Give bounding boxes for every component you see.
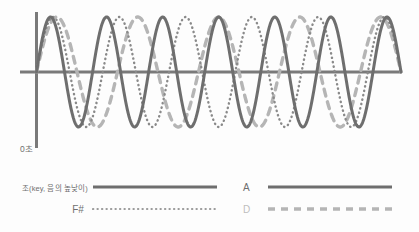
legend-item-key[interactable]: 조(key, 음의 높낮이) bbox=[22, 180, 218, 194]
legend: 조(key, 음의 높낮이) F# A bbox=[0, 178, 419, 226]
time-origin-label: 0초 bbox=[20, 142, 33, 154]
legend-swatch-key-solid bbox=[92, 183, 218, 191]
legend-item-d[interactable]: D bbox=[243, 202, 393, 216]
legend-swatch-a-solid bbox=[267, 183, 393, 191]
legend-swatch-d-dashed bbox=[267, 205, 393, 213]
legend-item-a[interactable]: A bbox=[243, 180, 393, 194]
legend-label-fsharp: F# bbox=[22, 204, 84, 215]
waveform-svg bbox=[0, 0, 419, 170]
legend-swatch-fsharp-dotted bbox=[92, 205, 218, 213]
waveform-plot bbox=[0, 0, 419, 170]
legend-label-d: D bbox=[243, 204, 259, 215]
legend-label-key: 조(key, 음의 높낮이) bbox=[22, 182, 84, 193]
legend-item-fsharp[interactable]: F# bbox=[22, 202, 218, 216]
sound-wave-figure: 0초 조(key, 음의 높낮이) F# A bbox=[0, 0, 419, 232]
legend-label-a: A bbox=[243, 182, 259, 193]
